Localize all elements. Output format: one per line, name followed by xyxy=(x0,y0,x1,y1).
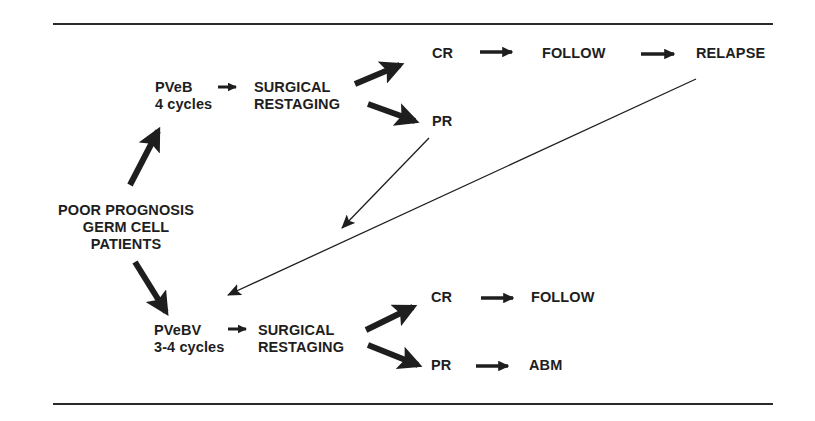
arrow-surgery-to-pr-lower xyxy=(368,345,418,365)
surgical-restaging-upper: SURGICAL RESTAGING xyxy=(254,79,340,113)
follow-lower-node: FOLLOW xyxy=(531,289,594,306)
surgery-upper-line-2: RESTAGING xyxy=(254,96,340,113)
arrow-pr-to-pvebv xyxy=(342,138,429,228)
surgical-restaging-lower: SURGICAL RESTAGING xyxy=(258,322,344,356)
arrow-surgery-to-cr-upper xyxy=(355,65,400,84)
cr-upper-node: CR xyxy=(432,45,453,62)
follow-upper-node: FOLLOW xyxy=(542,45,605,62)
pveb-node: PVeB 4 cycles xyxy=(155,79,212,113)
surgery-lower-line-1: SURGICAL xyxy=(258,322,344,339)
pr-upper-node: PR xyxy=(432,113,452,130)
pvebv-node: PVeBV 3-4 cycles xyxy=(154,322,224,356)
pveb-regimen: PVeB xyxy=(155,79,212,96)
surgery-lower-line-2: RESTAGING xyxy=(258,339,344,356)
pveb-cycles: 4 cycles xyxy=(155,96,212,113)
origin-node: POOR PROGNOSIS GERM CELL PATIENTS xyxy=(38,202,214,253)
pvebv-regimen: PVeBV xyxy=(154,322,224,339)
arrow-surgery-to-pr-upper xyxy=(368,104,415,121)
pvebv-cycles: 3-4 cycles xyxy=(154,339,224,356)
cr-lower-node: CR xyxy=(431,289,452,306)
pr-lower-node: PR xyxy=(431,357,451,374)
arrow-origin-to-pvebv xyxy=(135,262,166,312)
arrow-origin-to-pveb xyxy=(130,131,158,185)
surgery-upper-line-1: SURGICAL xyxy=(254,79,340,96)
relapse-node: RELAPSE xyxy=(696,45,765,62)
abm-node: ABM xyxy=(529,357,562,374)
origin-line-2: GERM CELL xyxy=(38,219,214,236)
origin-line-3: PATIENTS xyxy=(38,236,214,253)
origin-line-1: POOR PROGNOSIS xyxy=(38,202,214,219)
arrow-surgery-to-cr-lower xyxy=(366,307,413,330)
